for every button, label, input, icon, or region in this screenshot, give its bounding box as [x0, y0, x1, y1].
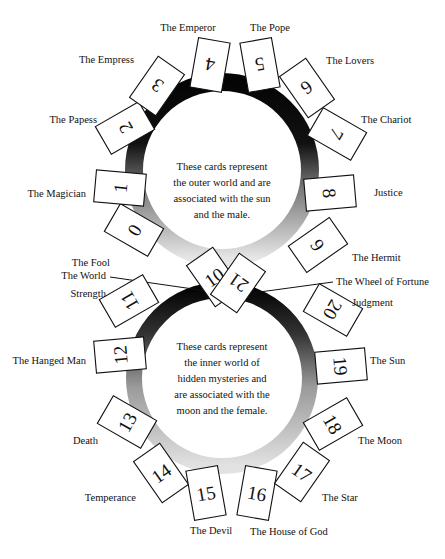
card-number: 16 — [246, 482, 268, 506]
card-label: The Hanged Man — [13, 355, 87, 366]
card-label: Strength — [70, 288, 106, 299]
card-label: The House of God — [250, 526, 329, 537]
card-label: The Sun — [370, 355, 406, 366]
card-label: Justice — [374, 187, 403, 198]
card-label: The Fool — [72, 257, 110, 268]
card-19: 19 — [315, 348, 368, 384]
card-label: The Moon — [358, 435, 403, 446]
card-1: 1 — [94, 170, 147, 206]
description-line: the inner world of — [184, 357, 260, 368]
description-line: These cards represent — [177, 341, 268, 352]
card-13: 13 — [97, 396, 156, 449]
tarot-figure-eight-diagram: These cards representthe outer world and… — [0, 0, 445, 559]
card-number: 1 — [110, 182, 132, 193]
card-label: The Papess — [49, 114, 97, 125]
description-line: and the male. — [194, 209, 250, 220]
description-line: associated with the sun — [173, 193, 271, 204]
card-label: The Wheel of Fortune — [336, 276, 429, 287]
card-number: 12 — [109, 345, 132, 366]
card-8: 8 — [304, 175, 357, 211]
card-12: 12 — [94, 337, 147, 373]
card-label: The Hermit — [352, 252, 401, 263]
upper-description: These cards representthe outer world and… — [173, 161, 271, 220]
description-line: hidden mysteries and — [177, 373, 267, 384]
card-16: 16 — [237, 466, 277, 521]
card-label: The World — [61, 270, 106, 281]
card-label: The Emperor — [160, 22, 216, 33]
card-label: Death — [73, 435, 99, 446]
card-label: The Empress — [79, 54, 134, 65]
card-label: The Star — [322, 492, 358, 503]
card-number: 15 — [195, 482, 217, 506]
description-line: the outer world and are — [173, 177, 271, 188]
card-20: 20 — [303, 284, 362, 337]
description-line: moon and the female. — [177, 405, 268, 416]
description-line: are associated with the — [174, 389, 270, 400]
lower-description: These cards representthe inner world ofh… — [174, 341, 270, 416]
cards: 0123456789101112131415161718192021 — [94, 38, 368, 521]
card-number: 8 — [319, 187, 341, 198]
card-label: Temperance — [85, 492, 136, 503]
card-label: The Chariot — [361, 114, 412, 125]
card-label: The Devil — [190, 525, 232, 536]
card-label: The Lovers — [326, 55, 374, 66]
description-line: These cards represent — [177, 161, 268, 172]
card-label: The Magician — [27, 188, 86, 199]
card-label: The Pope — [250, 22, 290, 33]
card-label: Judgment — [352, 297, 393, 308]
card-number: 19 — [329, 356, 352, 377]
